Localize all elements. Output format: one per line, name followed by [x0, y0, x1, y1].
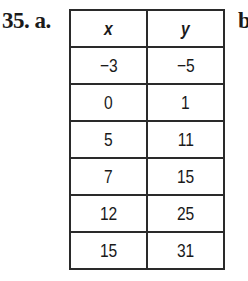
column-header-x: x	[70, 10, 147, 47]
cell-y: 1	[147, 84, 224, 121]
column-header-y: y	[147, 10, 224, 47]
table-header-row: x y	[70, 10, 224, 47]
problem-number-label: 35. a.	[2, 8, 51, 34]
table-row: 0 1	[70, 84, 224, 121]
cell-x: 15	[70, 232, 147, 269]
next-part-label: b	[238, 8, 248, 34]
xy-value-table: x y −3 −5 0 1 5 11 7 15 12 25 15 31	[69, 9, 225, 270]
table-row: −3 −5	[70, 47, 224, 84]
cell-x: 12	[70, 195, 147, 232]
cell-y: 15	[147, 158, 224, 195]
table-row: 15 31	[70, 232, 224, 269]
table-row: 5 11	[70, 121, 224, 158]
table-row: 12 25	[70, 195, 224, 232]
cell-y: 31	[147, 232, 224, 269]
table-row: 7 15	[70, 158, 224, 195]
cell-x: −3	[70, 47, 147, 84]
cell-y: −5	[147, 47, 224, 84]
cell-y: 25	[147, 195, 224, 232]
cell-y: 11	[147, 121, 224, 158]
cell-x: 0	[70, 84, 147, 121]
cell-x: 5	[70, 121, 147, 158]
cell-x: 7	[70, 158, 147, 195]
